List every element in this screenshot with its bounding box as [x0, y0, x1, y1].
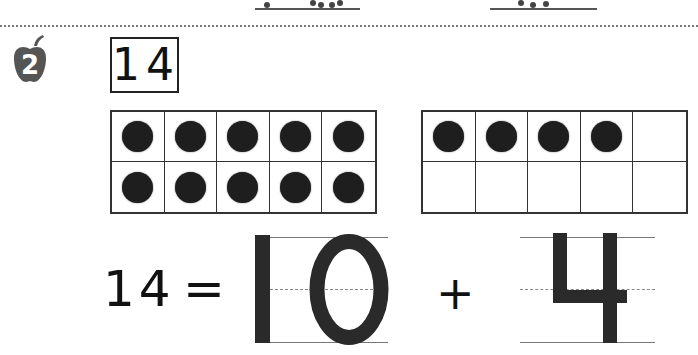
counter	[175, 172, 206, 203]
counter	[591, 121, 622, 152]
counter	[227, 172, 258, 203]
plus-sign: +	[436, 268, 475, 318]
frame-cell	[112, 162, 165, 212]
counter	[122, 172, 153, 203]
counter	[486, 121, 517, 152]
problem-number: 2	[12, 50, 48, 80]
counter	[333, 121, 364, 152]
dotted-separator	[0, 25, 698, 27]
answer-line	[490, 8, 597, 10]
dot	[518, 0, 524, 6]
traced-digit-0	[306, 232, 392, 347]
counter	[122, 121, 153, 152]
frame-cell-empty	[476, 162, 529, 212]
ten-frame-full	[110, 110, 377, 214]
traced-digit-4-crossbar	[553, 290, 627, 303]
guide-line-bottom	[520, 342, 655, 343]
guide-line-top	[520, 237, 655, 238]
counter	[280, 121, 311, 152]
counter	[433, 121, 464, 152]
counter	[227, 121, 258, 152]
traced-digit-4-right	[603, 233, 617, 343]
frame-cell	[322, 162, 375, 212]
frame-cell	[217, 112, 270, 162]
equation-left-number: 14	[103, 262, 175, 316]
frame-cell-empty	[423, 162, 476, 212]
frame-cell-empty	[581, 162, 634, 212]
dot	[337, 0, 343, 6]
frame-cell	[112, 112, 165, 162]
ten-frame-partial	[421, 110, 688, 214]
dot	[310, 0, 316, 6]
answer-line	[255, 8, 360, 10]
traced-digit-1	[255, 235, 270, 343]
frame-cell	[165, 112, 218, 162]
frame-cell-empty	[528, 162, 581, 212]
dot	[543, 1, 549, 7]
target-number: 14	[112, 41, 177, 89]
counter	[175, 121, 206, 152]
frame-cell	[322, 112, 375, 162]
frame-cell-empty	[633, 162, 686, 212]
frame-cell	[165, 162, 218, 212]
dot	[530, 2, 536, 8]
equals-sign: =	[183, 262, 225, 316]
frame-cell	[270, 162, 323, 212]
problem-number-badge: 2	[12, 34, 48, 84]
dot	[329, 2, 335, 8]
dot	[318, 2, 324, 8]
frame-cell-empty	[633, 112, 686, 162]
frame-cell	[528, 112, 581, 162]
target-number-box: 14	[110, 37, 179, 93]
frame-cell	[581, 112, 634, 162]
dot	[264, 2, 270, 8]
frame-cell	[270, 112, 323, 162]
counter	[333, 172, 364, 203]
frame-cell	[476, 112, 529, 162]
counter	[538, 121, 569, 152]
frame-cell	[423, 112, 476, 162]
counter	[280, 172, 311, 203]
frame-cell	[217, 162, 270, 212]
